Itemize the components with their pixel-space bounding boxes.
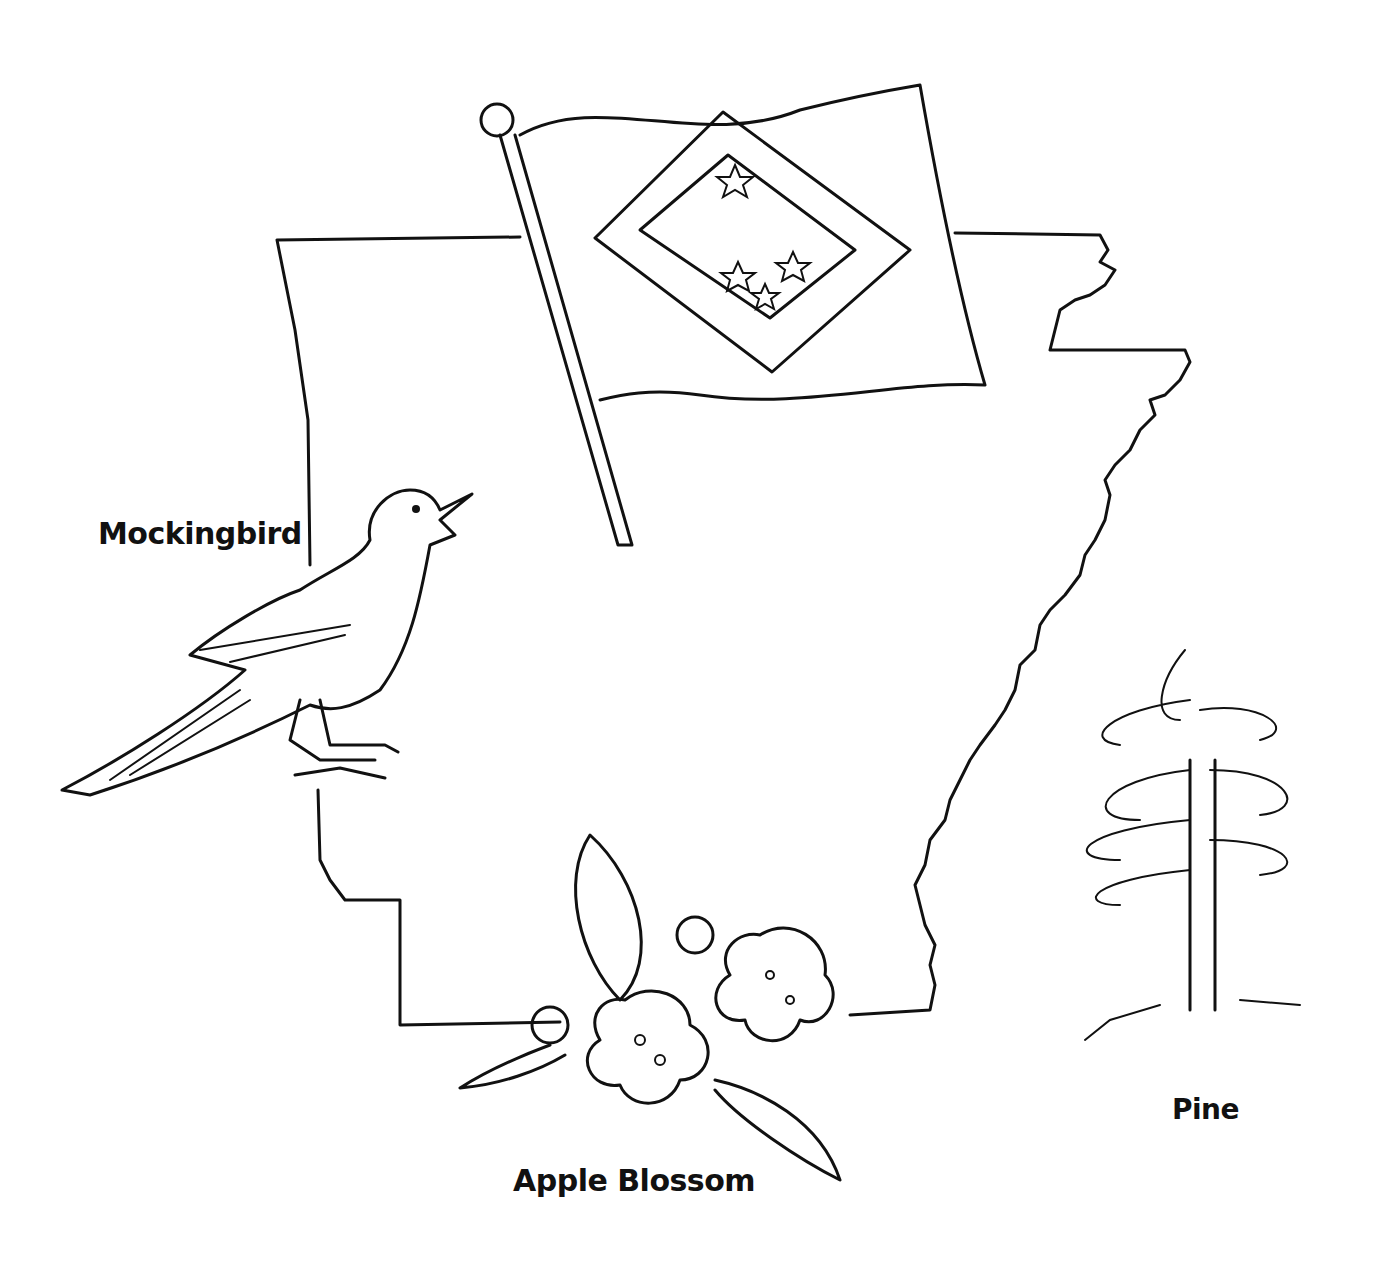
apple-blossom-drawing <box>460 835 840 1180</box>
apple-blossom-label: Apple Blossom <box>513 1163 755 1198</box>
mockingbird-label: Mockingbird <box>98 516 302 551</box>
coloring-page: Mockingbird Apple Blossom Pine <box>0 0 1383 1269</box>
state-flag <box>481 85 985 545</box>
arkansas-state-outline <box>277 233 1190 1025</box>
state-symbols-illustration <box>0 0 1383 1269</box>
pine-label: Pine <box>1172 1093 1239 1126</box>
pine-tree-drawing <box>1085 650 1300 1040</box>
